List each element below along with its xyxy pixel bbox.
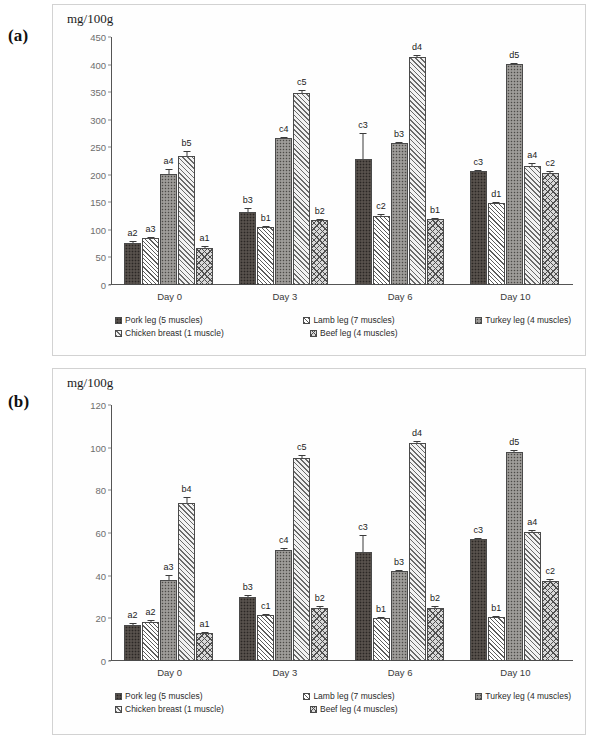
- bar-value-label: b1: [491, 603, 501, 613]
- bar-pork-leg-day-0[interactable]: a2: [124, 405, 141, 661]
- bar-turkey-leg-day-10[interactable]: d5: [506, 405, 523, 661]
- bar-turkey-leg-day-3[interactable]: c4: [275, 405, 292, 661]
- legend-label: Beef leg (4 muscles): [320, 704, 397, 714]
- bar-pork-leg-day-6[interactable]: c3: [355, 405, 372, 661]
- bar-beef-leg-day-0[interactable]: a1: [196, 405, 213, 661]
- bar-turkey-leg-day-3[interactable]: c4: [275, 37, 292, 285]
- legend-label: Lamb leg (7 muscles): [313, 315, 394, 325]
- bar-lamb-leg-day-6[interactable]: b1: [373, 405, 390, 661]
- bar-rect: [355, 552, 372, 661]
- bar-rect: [391, 571, 408, 661]
- legend-item-chicken-breast[interactable]: Chicken breast (1 muscle): [115, 328, 310, 338]
- bar-pork-leg-day-3[interactable]: b3: [239, 405, 256, 661]
- bar-beef-leg-day-3[interactable]: b2: [311, 405, 328, 661]
- bar-beef-leg-day-10[interactable]: c2: [542, 405, 559, 661]
- legend-label: Turkey leg (4 muscles): [485, 315, 571, 325]
- legend-item-pork-leg[interactable]: Pork leg (5 muscles): [115, 315, 303, 325]
- bar-lamb-leg-day-0[interactable]: a3: [142, 37, 159, 285]
- bar-rect: [257, 227, 274, 285]
- bar-rect: [293, 458, 310, 661]
- y-tick-mark: [108, 229, 111, 230]
- bar-rect: [257, 615, 274, 661]
- legend-swatch-icon: [310, 706, 317, 713]
- bar-turkey-leg-day-0[interactable]: a4: [160, 37, 177, 285]
- bar-group-day-6: c3b1b3d4b2: [343, 405, 458, 661]
- x-axis-label-day-6: Day 6: [343, 291, 458, 302]
- y-tick-mark: [108, 533, 111, 534]
- y-tick-mark: [108, 447, 111, 448]
- bar-pork-leg-day-6[interactable]: c3: [355, 37, 372, 285]
- bar-rect: [427, 608, 444, 661]
- legend-item-beef-leg[interactable]: Beef leg (4 muscles): [310, 328, 488, 338]
- bar-turkey-leg-day-0[interactable]: a3: [160, 405, 177, 661]
- y-tick-mark: [108, 119, 111, 120]
- bar-value-label: a1: [199, 619, 209, 629]
- bar-beef-leg-day-6[interactable]: b1: [427, 37, 444, 285]
- legend-swatch-icon: [115, 317, 122, 324]
- bar-rect: [142, 238, 159, 285]
- x-axis-label-day-0: Day 0: [112, 291, 227, 302]
- legend-item-lamb-leg[interactable]: Lamb leg (7 muscles): [303, 315, 475, 325]
- bar-beef-leg-day-3[interactable]: b2: [311, 37, 328, 285]
- bar-pork-leg-day-10[interactable]: c3: [470, 405, 487, 661]
- y-tick-mark: [108, 575, 111, 576]
- bar-value-label: a1: [199, 233, 209, 243]
- bar-pork-leg-day-10[interactable]: c3: [470, 37, 487, 285]
- y-tick-mark: [108, 405, 111, 406]
- bar-chicken-breast-day-0[interactable]: b5: [178, 37, 195, 285]
- bar-rect: [373, 216, 390, 285]
- bar-rect: [275, 138, 292, 285]
- bar-beef-leg-day-6[interactable]: b2: [427, 405, 444, 661]
- legend-item-turkey-leg[interactable]: Turkey leg (4 muscles): [475, 315, 571, 325]
- bar-value-label: b3: [243, 582, 253, 592]
- bar-value-label: c1: [261, 601, 271, 611]
- bar-lamb-leg-day-3[interactable]: c1: [257, 405, 274, 661]
- y-tick-label: 80: [95, 485, 106, 496]
- bar-lamb-leg-day-3[interactable]: b1: [257, 37, 274, 285]
- y-tick-label: 100: [90, 442, 106, 453]
- bar-turkey-leg-day-6[interactable]: b3: [391, 37, 408, 285]
- bar-chicken-breast-day-3[interactable]: c5: [293, 405, 310, 661]
- bar-chicken-breast-day-3[interactable]: c5: [293, 37, 310, 285]
- bar-turkey-leg-day-10[interactable]: d5: [506, 37, 523, 285]
- x-axis-label-day-3: Day 3: [227, 291, 342, 302]
- y-tick-label: 100: [90, 224, 106, 235]
- legend-swatch-icon: [115, 693, 122, 700]
- bar-chicken-breast-day-6[interactable]: d4: [409, 37, 426, 285]
- bar-chicken-breast-day-10[interactable]: a4: [524, 405, 541, 661]
- y-tick-mark: [108, 661, 111, 662]
- legend-swatch-icon: [310, 330, 317, 337]
- bar-lamb-leg-day-10[interactable]: b1: [488, 405, 505, 661]
- bar-rect: [124, 243, 141, 285]
- legend-item-lamb-leg[interactable]: Lamb leg (7 muscles): [303, 691, 475, 701]
- y-tick-label: 350: [90, 87, 106, 98]
- bar-chicken-breast-day-0[interactable]: b4: [178, 405, 195, 661]
- bar-pork-leg-day-0[interactable]: a2: [124, 37, 141, 285]
- bar-chicken-breast-day-10[interactable]: a4: [524, 37, 541, 285]
- bar-value-label: c4: [279, 124, 289, 134]
- bar-chicken-breast-day-6[interactable]: d4: [409, 405, 426, 661]
- bar-rect: [160, 174, 177, 285]
- y-tick-label: 0: [101, 656, 106, 667]
- bar-pork-leg-day-3[interactable]: b3: [239, 37, 256, 285]
- bar-value-label: c3: [358, 522, 368, 532]
- y-tick-label: 20: [95, 613, 106, 624]
- legend-item-beef-leg[interactable]: Beef leg (4 muscles): [310, 704, 488, 714]
- bar-value-label: b3: [394, 129, 404, 139]
- bar-beef-leg-day-10[interactable]: c2: [542, 37, 559, 285]
- bar-beef-leg-day-0[interactable]: a1: [196, 37, 213, 285]
- bar-lamb-leg-day-0[interactable]: a2: [142, 405, 159, 661]
- chart-panel-b: mg/100g 020406080100120 a2a2a3b4a1b3c1c4…: [52, 368, 586, 735]
- x-axis-labels-a: Day 0Day 3Day 6Day 10: [112, 291, 573, 302]
- y-tick-label: 120: [90, 400, 106, 411]
- legend-item-turkey-leg[interactable]: Turkey leg (4 muscles): [475, 691, 571, 701]
- bar-lamb-leg-day-6[interactable]: c2: [373, 37, 390, 285]
- y-tick-label: 0: [101, 280, 106, 291]
- bar-lamb-leg-day-10[interactable]: d1: [488, 37, 505, 285]
- bar-rect: [142, 622, 159, 661]
- bar-turkey-leg-day-6[interactable]: b3: [391, 405, 408, 661]
- bar-value-label: c5: [297, 77, 307, 87]
- legend-item-pork-leg[interactable]: Pork leg (5 muscles): [115, 691, 303, 701]
- legend-item-chicken-breast[interactable]: Chicken breast (1 muscle): [115, 704, 310, 714]
- bar-value-label: b1: [430, 205, 440, 215]
